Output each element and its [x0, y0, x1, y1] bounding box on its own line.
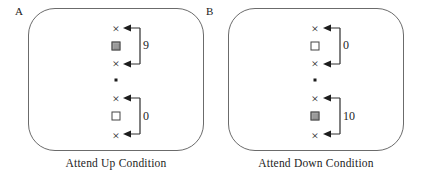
x-mark: × — [112, 129, 119, 142]
shift-count: 0 — [343, 39, 349, 52]
shift-count: 9 — [143, 39, 149, 52]
x-mark: × — [311, 57, 318, 70]
target-square — [112, 112, 121, 121]
figure: A × × 9 × × 0 Attend Up Conditi — [0, 0, 424, 178]
x-mark: × — [311, 129, 318, 142]
x-mark: × — [112, 22, 119, 35]
x-mark: × — [112, 57, 119, 70]
x-mark: × — [311, 22, 318, 35]
fixation-point — [314, 79, 317, 82]
target-square — [311, 42, 320, 51]
panel-b: B × × 0 × × 10 Attend Down Cond — [200, 0, 424, 178]
target-square — [112, 42, 121, 51]
panel-caption: Attend Up Condition — [28, 156, 204, 170]
panel-caption: Attend Down Condition — [228, 156, 404, 170]
panel-a: A × × 9 × × 0 Attend Up Conditi — [0, 0, 224, 178]
shift-count: 0 — [143, 110, 149, 123]
panel-label: B — [206, 5, 213, 17]
fixation-point — [115, 79, 118, 82]
x-mark: × — [311, 92, 318, 105]
x-mark: × — [112, 92, 119, 105]
panel-label: A — [15, 5, 23, 17]
shift-count: 10 — [343, 110, 355, 123]
target-square — [311, 112, 320, 121]
